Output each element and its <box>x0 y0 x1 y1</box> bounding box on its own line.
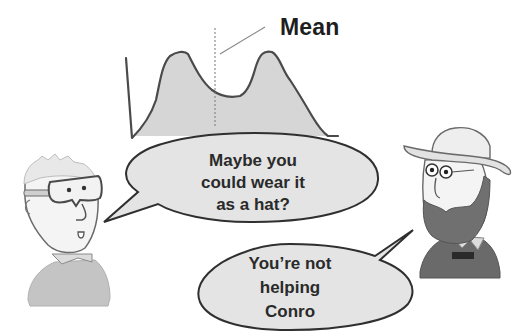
left-character <box>24 154 110 306</box>
shirt <box>28 260 110 306</box>
mean-pointer-line <box>220 27 265 54</box>
bubble-line: could wear it <box>178 172 328 194</box>
right-eye <box>82 186 86 190</box>
bubble-line: You’re not <box>230 252 350 276</box>
bubble-line: helping <box>230 276 350 300</box>
camera <box>452 252 474 259</box>
bimodal-chart <box>126 27 338 138</box>
mouth <box>78 232 84 238</box>
speech-bubble-left-text: Maybe you could wear it as a hat? <box>178 150 328 216</box>
speech-bubble-right-text: You’re not helping Conro <box>230 252 350 324</box>
right-pupil <box>444 170 448 174</box>
mean-label: Mean <box>280 14 340 41</box>
cartoon-scene: Mean Maybe you could wear it as a hat? Y… <box>0 0 529 335</box>
bubble-line: as a hat? <box>178 194 328 216</box>
left-eye <box>67 188 71 192</box>
right-character <box>404 128 511 278</box>
bubble-line: Conro <box>230 300 350 324</box>
left-pupil <box>430 168 434 172</box>
bubble-line: Maybe you <box>178 150 328 172</box>
